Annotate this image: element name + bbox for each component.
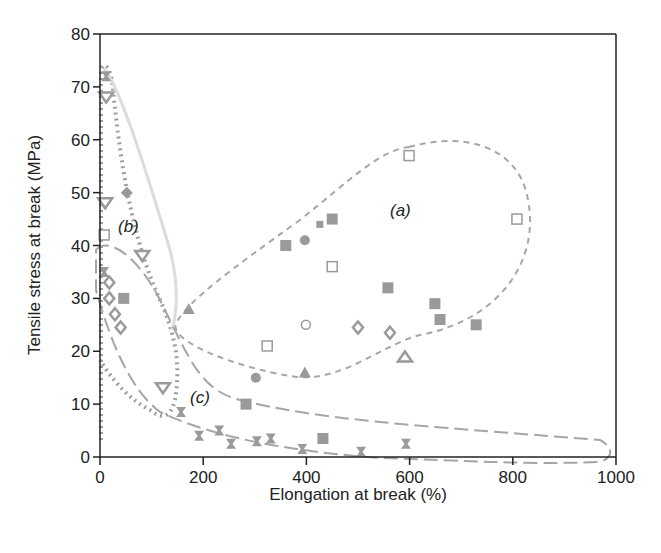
filled-square-marker <box>471 319 482 330</box>
y-tick-label: 10 <box>71 395 90 414</box>
y-tick-label: 80 <box>71 25 90 44</box>
open-diamond-marker <box>104 277 114 289</box>
open-diamond-marker <box>116 321 126 333</box>
open-diamond-marker <box>110 308 120 320</box>
scatter-chart: 02004006008001000 01020304050607080 Elon… <box>0 0 661 553</box>
open-diamond-marker <box>353 321 363 333</box>
y-tick-label: 50 <box>71 184 90 203</box>
hourglass-marker <box>214 426 224 436</box>
y-tick-label: 60 <box>71 131 90 150</box>
open-circle-marker <box>301 320 310 329</box>
filled-square-marker <box>327 214 338 225</box>
filled-triangle-marker <box>183 303 195 314</box>
y-tick-label: 0 <box>81 448 90 467</box>
x-axis-title: Elongation at break (%) <box>269 485 447 504</box>
region-label-c: (c) <box>190 388 210 407</box>
filled-square-marker <box>118 293 129 304</box>
hourglass-marker <box>176 407 186 417</box>
filled-diamond-marker <box>121 187 133 199</box>
y-tick-label: 40 <box>71 237 90 256</box>
y-tick-label: 30 <box>71 289 90 308</box>
y-axis-title: Tensile stress at break (MPa) <box>25 135 44 355</box>
filled-square-marker <box>382 282 393 293</box>
filled-square-marker <box>241 399 252 410</box>
region-label-b: (b) <box>118 217 139 236</box>
open-triangle-down-marker <box>135 251 149 261</box>
open-square-marker <box>327 262 337 272</box>
filled-square-marker <box>317 433 328 444</box>
y-tick-label: 70 <box>71 78 90 97</box>
open-square-marker <box>262 341 272 351</box>
filled-circle-marker <box>251 373 261 383</box>
x-tick-label: 200 <box>189 468 217 487</box>
x-tick-label: 1000 <box>597 468 635 487</box>
region-a-outline <box>175 141 530 377</box>
filled-triangle-marker <box>299 366 311 377</box>
open-triangle-up-marker <box>398 352 412 362</box>
open-diamond-marker <box>104 292 114 304</box>
small-filled-square-marker <box>316 221 323 228</box>
open-diamond-marker <box>385 327 395 339</box>
hourglass-marker <box>226 439 236 449</box>
filled-circle-marker <box>300 235 310 245</box>
region-label-a: (a) <box>390 201 411 220</box>
hourglass-marker <box>266 433 276 443</box>
region-c-outline <box>96 246 610 463</box>
x-ticks: 02004006008001000 <box>95 457 635 487</box>
open-triangle-down-marker <box>156 383 170 393</box>
hourglass-marker <box>194 431 204 441</box>
data-markers <box>98 71 522 456</box>
filled-square-marker <box>280 240 291 251</box>
open-triangle-down-marker <box>99 92 113 102</box>
y-ticks: 01020304050607080 <box>71 25 100 467</box>
filled-square-marker <box>435 314 446 325</box>
hourglass-marker <box>297 444 307 454</box>
open-square-marker <box>404 151 414 161</box>
x-tick-label: 0 <box>95 468 104 487</box>
y-tick-label: 20 <box>71 342 90 361</box>
filled-square-marker <box>429 298 440 309</box>
hourglass-marker <box>356 447 366 457</box>
x-tick-label: 800 <box>499 468 527 487</box>
open-square-marker <box>512 214 522 224</box>
hourglass-marker <box>401 439 411 449</box>
region-outlines <box>96 65 610 463</box>
